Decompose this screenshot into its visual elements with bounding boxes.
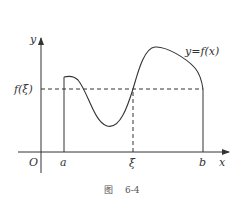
xi-label: ξ (129, 157, 136, 170)
y-axis-label: y (29, 33, 37, 46)
figure-caption-number: 6-4 (125, 185, 140, 195)
mean-value-diagram: y x O a ξ b f(ξ) y=f(x) 图 6-4 (0, 0, 241, 210)
origin-label: O (29, 156, 38, 169)
a-label: a (60, 156, 67, 169)
curve-label: y=f(x) (184, 45, 219, 58)
figure-caption-prefix: 图 (104, 185, 113, 195)
x-axis-label: x (219, 156, 226, 169)
f-xi-label: f(ξ) (13, 83, 33, 96)
b-label: b (199, 156, 206, 169)
